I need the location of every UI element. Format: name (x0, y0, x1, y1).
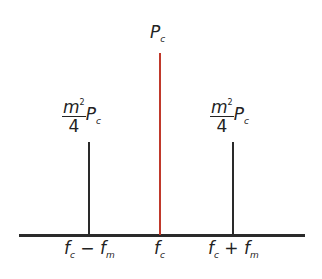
upper-frequency-label: fc + fm (208, 238, 259, 260)
upper-sideband-line (232, 142, 234, 235)
fraction: m2 4 (210, 94, 234, 135)
carrier-power-label: Pc (150, 22, 165, 44)
lower-sideband-power-label: m2 4 Pc (62, 94, 101, 135)
carrier-frequency-label: fc (154, 238, 165, 260)
fraction: m2 4 (62, 94, 86, 135)
frequency-axis (19, 234, 305, 237)
lower-sideband-line (88, 142, 90, 235)
carrier-line (159, 53, 161, 235)
upper-sideband-power-label: m2 4 Pc (210, 94, 249, 135)
lower-frequency-label: fc − fm (64, 238, 115, 260)
